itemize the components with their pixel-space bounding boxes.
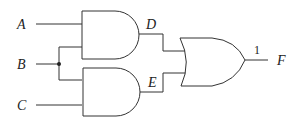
output-value: 1: [254, 43, 260, 57]
or-gate: [180, 38, 245, 86]
wire-d: [139, 34, 186, 51]
and-gate-bottom: [83, 68, 140, 116]
and-gate-top: [82, 11, 139, 59]
wire-b-branch: [59, 47, 82, 80]
label-d: D: [145, 17, 156, 32]
input-label-a: A: [16, 17, 26, 32]
input-label-c: C: [17, 98, 27, 113]
label-e: E: [147, 75, 157, 90]
output-label-f: F: [276, 53, 286, 68]
input-label-b: B: [17, 57, 26, 72]
junction-dot: [57, 62, 61, 66]
wire-e: [140, 73, 186, 92]
logic-circuit-diagram: A B C D E 1 F: [0, 0, 301, 126]
